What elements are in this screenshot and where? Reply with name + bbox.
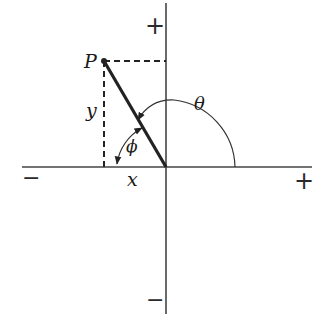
label-x: x <box>127 168 138 190</box>
point-p-dot <box>101 58 107 64</box>
label-phi: ϕ <box>126 136 138 156</box>
polar-diagram: P y x θ ϕ − + + − <box>0 0 326 329</box>
label-theta: θ <box>194 93 205 114</box>
label-p: P <box>83 50 98 72</box>
x-negative-sign: − <box>22 165 40 190</box>
y-positive-sign: + <box>145 12 165 40</box>
x-positive-sign: + <box>294 167 314 195</box>
label-y: y <box>85 99 97 121</box>
y-negative-sign: − <box>146 287 164 312</box>
theta-arc <box>138 100 235 167</box>
